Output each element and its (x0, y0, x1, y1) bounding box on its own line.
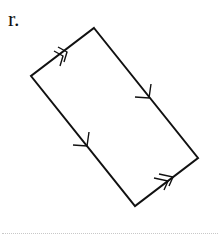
double-arrow-marker-lower (154, 174, 173, 190)
single-arrow-marker-right (135, 84, 151, 98)
parallelogram (31, 28, 198, 206)
parallelogram-figure (0, 0, 220, 239)
dotted-separator (2, 233, 218, 234)
